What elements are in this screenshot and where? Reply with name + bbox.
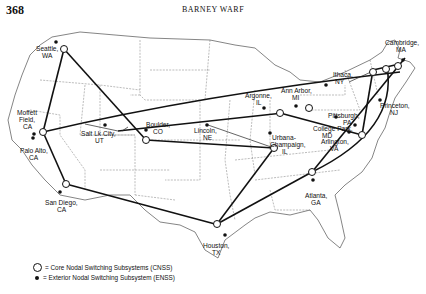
svg-text:Urbana-Champaign,IL: Urbana-Champaign,IL [270,134,306,155]
svg-text:Ann Arbor,MI: Ann Arbor,MI [281,87,312,101]
svg-text:San Diego,CA: San Diego,CA [45,199,78,213]
core-node-sandiego [63,181,70,188]
open-circle-icon [33,263,42,272]
core-node-seattle [61,46,68,53]
core-node-paloalto [40,129,47,136]
svg-text:Princeton,NJ: Princeton,NJ [380,102,410,116]
legend-core-text: = Core Nodal Switching Subsystems (CNSS) [45,264,172,271]
filled-dot-icon [35,276,39,280]
svg-text:Lincoln,NE: Lincoln,NE [194,127,217,141]
core-node-houston [214,221,221,228]
legend-exterior: = Exterior Nodal Switching Subsystem (EN… [33,274,175,281]
core-node-collegepark [359,132,366,139]
svg-text:Arlington,VA: Arlington,VA [321,138,349,152]
svg-text:MoffettField,CA: MoffettField,CA [17,109,37,130]
core-node-atlanta [309,169,316,176]
core-node-annarbor [306,105,313,112]
core-node-princeton [383,66,390,73]
legend-core: = Core Nodal Switching Subsystems (CNSS) [33,263,172,272]
svg-text:Argonne,IL: Argonne,IL [245,92,272,106]
core-node-cambridge [395,63,402,70]
svg-text:Salt Lk City,UT: Salt Lk City,UT [81,130,116,144]
us-network-map: Seattle,WA MoffettField,CA Palo Alto,CA … [0,0,426,294]
svg-text:Houston,TX: Houston,TX [203,242,230,256]
core-node-boulder [143,137,150,144]
svg-text:Seattle,WA: Seattle,WA [36,45,59,59]
svg-text:College Park,MD: College Park,MD [313,125,353,139]
core-node-ithaca [370,69,377,76]
legend-exterior-text: = Exterior Nodal Switching Subsystem (EN… [43,274,175,281]
svg-text:Palo Alto,CA: Palo Alto,CA [20,147,48,161]
core-node-argonne [277,110,284,117]
svg-text:Atlanta,GA: Atlanta,GA [305,192,328,206]
svg-text:Cambridge,MA: Cambridge,MA [385,39,419,53]
